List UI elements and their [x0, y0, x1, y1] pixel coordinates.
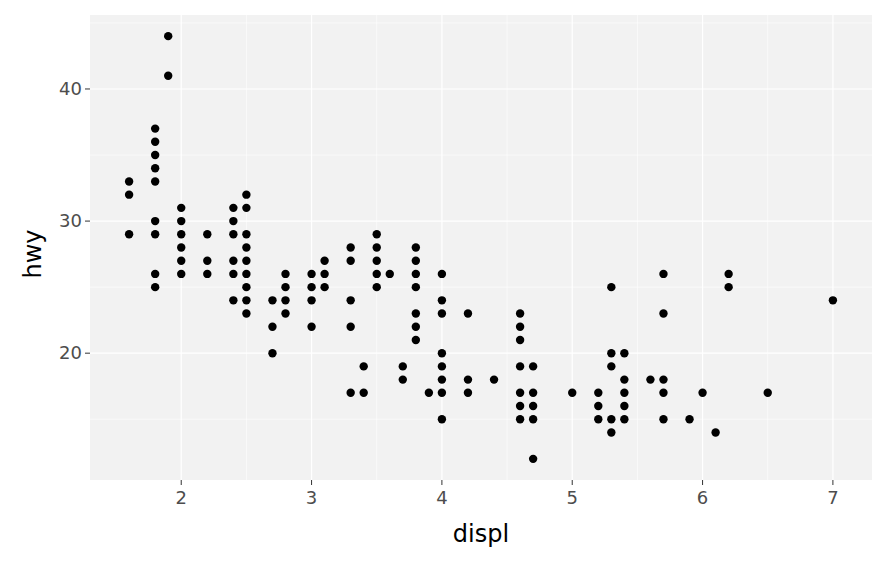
data-point — [529, 415, 537, 423]
data-point — [607, 362, 615, 370]
data-point — [177, 257, 185, 265]
data-point — [659, 309, 667, 317]
data-point — [242, 283, 250, 291]
data-point — [594, 415, 602, 423]
data-point — [464, 375, 472, 383]
data-point — [412, 323, 420, 331]
data-point — [229, 270, 237, 278]
data-point — [177, 243, 185, 251]
data-point — [177, 204, 185, 212]
data-point — [242, 296, 250, 304]
data-point — [151, 151, 159, 159]
data-point — [164, 32, 172, 40]
data-point — [659, 270, 667, 278]
data-point — [229, 296, 237, 304]
data-point — [307, 270, 315, 278]
data-point — [829, 296, 837, 304]
data-point — [620, 402, 628, 410]
data-point — [607, 428, 615, 436]
data-point — [490, 375, 498, 383]
data-point — [268, 296, 276, 304]
data-point — [399, 362, 407, 370]
data-point — [177, 270, 185, 278]
data-point — [594, 402, 602, 410]
data-point — [438, 389, 446, 397]
data-point — [151, 138, 159, 146]
data-point — [320, 257, 328, 265]
data-point — [412, 336, 420, 344]
data-point — [151, 283, 159, 291]
data-point — [516, 336, 524, 344]
data-point — [125, 177, 133, 185]
data-point — [399, 375, 407, 383]
data-point — [412, 243, 420, 251]
y-axis-title: hwy — [19, 229, 47, 278]
data-point — [281, 270, 289, 278]
data-point — [125, 190, 133, 198]
data-point — [346, 389, 354, 397]
data-point — [698, 389, 706, 397]
data-point — [268, 349, 276, 357]
data-point — [438, 375, 446, 383]
y-tick-label: 40 — [59, 78, 82, 99]
data-point — [229, 217, 237, 225]
data-point — [242, 257, 250, 265]
data-point — [151, 270, 159, 278]
data-point — [203, 270, 211, 278]
data-point — [529, 402, 537, 410]
data-point — [346, 296, 354, 304]
data-point — [438, 415, 446, 423]
data-point — [268, 323, 276, 331]
data-point — [620, 349, 628, 357]
panel-background — [90, 15, 872, 480]
scatter-plot: 234567 203040 displ hwy — [0, 0, 889, 570]
data-point — [529, 389, 537, 397]
data-point — [151, 164, 159, 172]
data-point — [620, 389, 628, 397]
data-point — [360, 362, 368, 370]
data-point — [516, 309, 524, 317]
data-point — [594, 389, 602, 397]
data-point — [373, 270, 381, 278]
data-point — [464, 389, 472, 397]
data-point — [164, 72, 172, 80]
data-point — [203, 257, 211, 265]
data-point — [646, 375, 654, 383]
data-point — [607, 415, 615, 423]
data-point — [529, 362, 537, 370]
data-point — [151, 217, 159, 225]
data-point — [229, 204, 237, 212]
data-point — [373, 243, 381, 251]
data-point — [242, 204, 250, 212]
data-point — [320, 270, 328, 278]
data-point — [529, 455, 537, 463]
data-point — [607, 349, 615, 357]
data-point — [620, 415, 628, 423]
data-point — [177, 217, 185, 225]
y-tick-label: 20 — [59, 342, 82, 363]
data-point — [412, 309, 420, 317]
data-point — [659, 375, 667, 383]
x-tick-label: 2 — [176, 487, 187, 508]
data-point — [242, 309, 250, 317]
data-point — [151, 177, 159, 185]
data-point — [516, 362, 524, 370]
data-point — [360, 389, 368, 397]
data-point — [203, 230, 211, 238]
data-point — [229, 230, 237, 238]
data-point — [438, 362, 446, 370]
data-point — [516, 402, 524, 410]
data-point — [425, 389, 433, 397]
data-point — [229, 257, 237, 265]
data-point — [177, 230, 185, 238]
data-point — [659, 389, 667, 397]
data-point — [151, 124, 159, 132]
data-point — [724, 270, 732, 278]
data-point — [516, 323, 524, 331]
data-point — [242, 230, 250, 238]
data-point — [438, 270, 446, 278]
data-point — [320, 283, 328, 291]
data-point — [281, 296, 289, 304]
data-point — [438, 309, 446, 317]
x-tick-label: 3 — [306, 487, 317, 508]
